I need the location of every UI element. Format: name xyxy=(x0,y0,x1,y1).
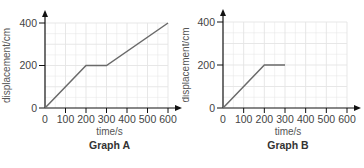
y-axis-title: displacement/cm xyxy=(1,28,12,103)
graph-a-chart: 01002003004005006000200400time/sdisplace… xyxy=(0,0,182,168)
graph-a-panel: 01002003004005006000200400time/sdisplace… xyxy=(0,0,182,168)
x-tick-label: 200 xyxy=(77,113,95,125)
x-tick-label: 100 xyxy=(57,113,75,125)
graph-b-chart: 01002003004005006000200400time/sdisplace… xyxy=(182,0,364,168)
x-tick-label: 600 xyxy=(159,113,177,125)
x-axis-arrow-icon xyxy=(354,105,361,111)
graph-b-panel: 01002003004005006000200400time/sdisplace… xyxy=(182,0,364,168)
x-tick-label: 300 xyxy=(98,113,116,125)
x-tick-label: 100 xyxy=(235,113,253,125)
y-tick-label: 400 xyxy=(197,16,215,28)
x-axis-title: time/s xyxy=(96,126,123,137)
y-tick-label: 400 xyxy=(19,17,37,29)
y-tick-label: 200 xyxy=(19,59,37,71)
x-tick-label: 500 xyxy=(139,113,157,125)
x-axis-title: time/s xyxy=(275,126,302,137)
graph-title: Graph A xyxy=(89,139,130,151)
x-tick-label: 0 xyxy=(220,113,226,125)
y-axis-arrow-icon xyxy=(42,10,48,17)
y-axis-title: displacement/cm xyxy=(182,27,191,102)
x-tick-label: 400 xyxy=(297,113,315,125)
y-tick-label: 200 xyxy=(197,59,215,71)
y-tick-label: 0 xyxy=(209,102,215,114)
x-tick-label: 200 xyxy=(256,113,274,125)
y-axis-arrow-icon xyxy=(220,9,226,16)
graph-title: Graph B xyxy=(267,139,309,151)
x-tick-label: 500 xyxy=(318,113,336,125)
x-tick-label: 0 xyxy=(42,113,48,125)
x-axis-arrow-icon xyxy=(175,105,182,111)
x-tick-label: 600 xyxy=(338,113,356,125)
y-tick-label: 0 xyxy=(31,102,37,114)
x-tick-label: 400 xyxy=(118,113,136,125)
x-tick-label: 300 xyxy=(276,113,294,125)
